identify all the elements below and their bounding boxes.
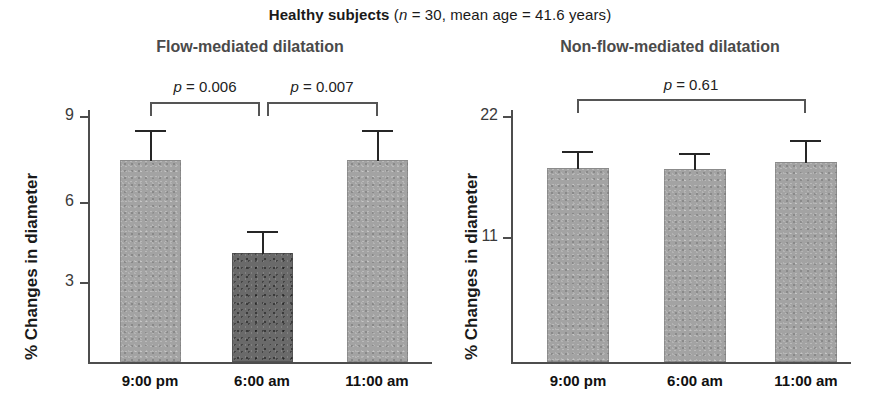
x-axis-line-right xyxy=(511,362,851,364)
x-ticklabel-right-1: 9:00 pm xyxy=(528,372,628,389)
pvalue-right-1-value: = 0.61 xyxy=(676,76,718,93)
x-axis-line-left xyxy=(88,362,432,364)
x-ticklabel-left-1: 9:00 pm xyxy=(100,372,200,389)
figure-title-tail: = 30, mean age = 41.6 years) xyxy=(407,6,611,23)
x-ticklabel-right-2: 6:00 am xyxy=(645,372,745,389)
errorbar-stem-right-3 xyxy=(805,141,807,163)
pvalue-left-2: p = 0.007 xyxy=(262,78,382,95)
errorbar-cap-left-1 xyxy=(135,130,166,132)
y-ticklabel-right-11: 11 xyxy=(462,227,498,245)
bar-right-1 xyxy=(547,168,609,362)
pvalue-left-1-value: = 0.006 xyxy=(186,78,236,95)
x-ticklabel-left-2: 6:00 am xyxy=(212,372,312,389)
errorbar-stem-left-1 xyxy=(150,131,152,161)
figure-title: Healthy subjects (n = 30, mean age = 41.… xyxy=(0,6,880,23)
panel-title-right: Non-flow-mediated dilatation xyxy=(470,38,870,56)
bar-left-1 xyxy=(120,160,181,362)
bar-right-2 xyxy=(664,169,726,362)
errorbar-cap-left-2 xyxy=(247,231,278,233)
figure-title-bold: Healthy subjects xyxy=(269,6,390,23)
pvalue-left-2-value: = 0.007 xyxy=(303,78,353,95)
y-tick-left-9 xyxy=(80,116,89,118)
significance-bracket-left-2 xyxy=(267,102,378,116)
figure-title-open-paren: ( xyxy=(390,6,399,23)
x-ticklabel-left-3: 11:00 am xyxy=(327,372,427,389)
y-tick-right-11 xyxy=(503,237,512,239)
y-tick-left-3 xyxy=(80,282,89,284)
y-axis-line-left xyxy=(88,110,90,364)
errorbar-cap-right-1 xyxy=(562,151,593,153)
errorbar-stem-right-1 xyxy=(577,152,579,169)
y-ticklabel-left-3: 3 xyxy=(48,272,74,290)
figure-root: Healthy subjects (n = 30, mean age = 41.… xyxy=(0,0,880,412)
pvalue-right-1-symbol: p xyxy=(664,76,672,93)
pvalue-left-1-symbol: p xyxy=(174,78,182,95)
errorbar-stem-right-2 xyxy=(694,154,696,170)
bar-left-2 xyxy=(232,253,293,362)
y-ticklabel-right-22: 22 xyxy=(462,106,498,124)
panel-title-left: Flow-mediated dilatation xyxy=(60,38,440,56)
y-axis-label-left: % Changes in diameter xyxy=(22,173,42,360)
errorbar-stem-left-3 xyxy=(377,131,379,161)
pvalue-left-1: p = 0.006 xyxy=(145,78,265,95)
pvalue-right-1: p = 0.61 xyxy=(631,76,751,93)
bar-right-3 xyxy=(775,162,837,362)
y-tick-left-6 xyxy=(80,202,89,204)
y-axis-label-right: % Changes in diameter xyxy=(462,173,482,360)
pvalue-left-2-symbol: p xyxy=(291,78,299,95)
y-tick-right-22 xyxy=(503,116,512,118)
errorbar-stem-left-2 xyxy=(262,232,264,254)
errorbar-cap-right-3 xyxy=(790,140,821,142)
significance-bracket-left-1 xyxy=(150,102,260,116)
errorbar-cap-right-2 xyxy=(679,153,710,155)
bar-left-3 xyxy=(347,160,408,362)
y-ticklabel-left-6: 6 xyxy=(48,192,74,210)
significance-bracket-right-1 xyxy=(577,99,806,113)
x-ticklabel-right-3: 11:00 am xyxy=(756,372,856,389)
y-ticklabel-left-9: 9 xyxy=(48,106,74,124)
errorbar-cap-left-3 xyxy=(362,130,393,132)
